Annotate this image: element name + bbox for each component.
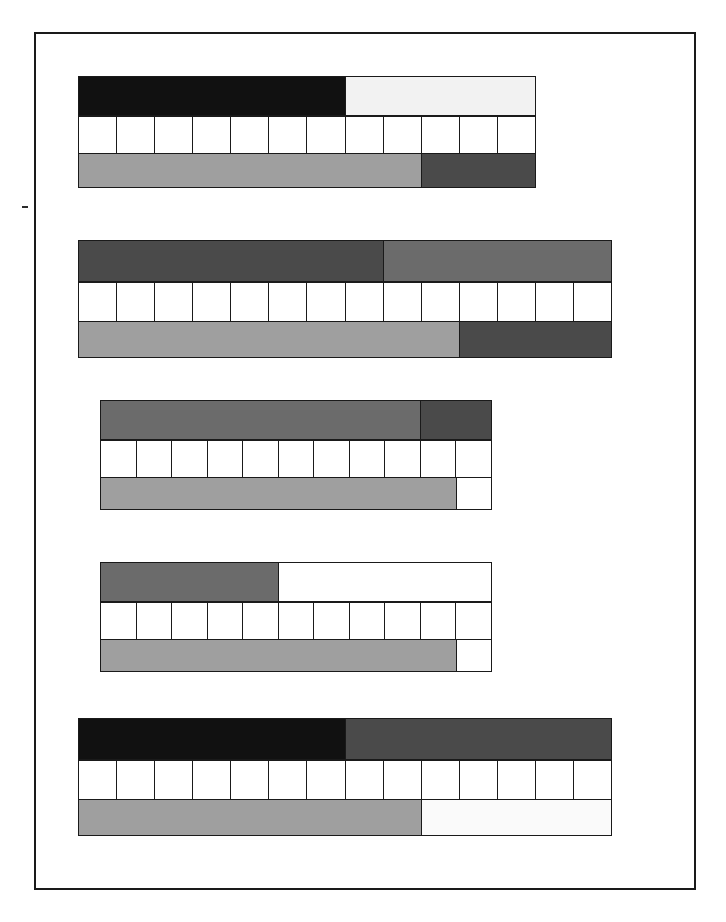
strip-cell[interactable]	[117, 117, 155, 153]
strip-cells-row[interactable]	[78, 116, 536, 154]
strip-cell[interactable]	[498, 761, 536, 799]
strip-cell[interactable]	[307, 283, 345, 321]
bottom-bar-segment[interactable]	[79, 154, 421, 187]
strip-cell[interactable]	[231, 283, 269, 321]
strip-cells-row[interactable]	[78, 282, 612, 322]
strip-cell[interactable]	[536, 761, 574, 799]
strip-top-bar[interactable]	[100, 562, 492, 602]
strip-cell[interactable]	[385, 441, 421, 477]
bottom-bar-segment[interactable]	[421, 800, 611, 835]
strip-cell[interactable]	[117, 761, 155, 799]
strip-cell[interactable]	[456, 441, 492, 477]
strip-cell[interactable]	[172, 603, 208, 639]
bottom-bar-segment[interactable]	[101, 478, 456, 509]
strip-cell[interactable]	[101, 441, 137, 477]
strip-cell[interactable]	[279, 441, 315, 477]
strip-cell[interactable]	[346, 283, 384, 321]
strip-cell[interactable]	[384, 283, 422, 321]
strip-group[interactable]	[78, 76, 536, 188]
bottom-bar-segment[interactable]	[79, 800, 421, 835]
bottom-bar-segment[interactable]	[459, 322, 611, 357]
strip-cell[interactable]	[193, 117, 231, 153]
strip-cell[interactable]	[421, 441, 457, 477]
top-bar-segment[interactable]	[345, 719, 611, 759]
strip-group[interactable]	[78, 718, 612, 836]
strip-bottom-bar[interactable]	[78, 322, 612, 358]
strip-cell[interactable]	[314, 441, 350, 477]
top-bar-segment[interactable]	[79, 241, 383, 281]
strip-cell[interactable]	[422, 117, 460, 153]
strip-cell[interactable]	[536, 283, 574, 321]
strip-cell[interactable]	[231, 761, 269, 799]
strip-top-bar[interactable]	[78, 240, 612, 282]
strip-cell[interactable]	[307, 761, 345, 799]
strip-cell[interactable]	[498, 117, 536, 153]
strip-cell[interactable]	[456, 603, 492, 639]
bottom-bar-segment[interactable]	[456, 478, 491, 509]
strip-cell[interactable]	[346, 761, 384, 799]
top-bar-segment[interactable]	[101, 401, 420, 439]
strip-bottom-bar[interactable]	[100, 640, 492, 672]
strip-cell[interactable]	[269, 117, 307, 153]
strip-cell[interactable]	[421, 603, 457, 639]
strip-cell[interactable]	[574, 761, 612, 799]
top-bar-segment[interactable]	[101, 563, 278, 601]
strip-cell[interactable]	[460, 761, 498, 799]
strip-top-bar[interactable]	[100, 400, 492, 440]
strip-cell[interactable]	[314, 603, 350, 639]
top-bar-segment[interactable]	[79, 77, 345, 115]
strip-cell[interactable]	[307, 117, 345, 153]
strip-cell[interactable]	[155, 761, 193, 799]
strip-cell[interactable]	[231, 117, 269, 153]
strip-cell[interactable]	[79, 117, 117, 153]
bottom-bar-segment[interactable]	[421, 154, 535, 187]
strip-cell[interactable]	[117, 283, 155, 321]
strip-cell[interactable]	[79, 283, 117, 321]
strip-cell[interactable]	[193, 761, 231, 799]
strip-cell[interactable]	[172, 441, 208, 477]
strip-cell[interactable]	[243, 441, 279, 477]
strip-top-bar[interactable]	[78, 76, 536, 116]
strip-cells-row[interactable]	[100, 440, 492, 478]
strip-cell[interactable]	[208, 603, 244, 639]
strip-cell[interactable]	[137, 441, 173, 477]
strip-cell[interactable]	[385, 603, 421, 639]
strip-cell[interactable]	[384, 117, 422, 153]
strip-cell[interactable]	[193, 283, 231, 321]
strip-cell[interactable]	[208, 441, 244, 477]
strip-cell[interactable]	[79, 761, 117, 799]
strip-cell[interactable]	[101, 603, 137, 639]
strip-bottom-bar[interactable]	[100, 478, 492, 510]
bottom-bar-segment[interactable]	[79, 322, 459, 357]
strip-cell[interactable]	[269, 761, 307, 799]
strip-cell[interactable]	[460, 117, 498, 153]
strip-cell[interactable]	[155, 117, 193, 153]
top-bar-segment[interactable]	[383, 241, 611, 281]
strip-group[interactable]	[100, 400, 492, 510]
strip-cell[interactable]	[460, 283, 498, 321]
strip-cell[interactable]	[574, 283, 612, 321]
bottom-bar-segment[interactable]	[101, 640, 456, 671]
strip-top-bar[interactable]	[78, 718, 612, 760]
strip-group[interactable]	[78, 240, 612, 358]
strip-cell[interactable]	[269, 283, 307, 321]
strip-cell[interactable]	[422, 283, 460, 321]
strip-bottom-bar[interactable]	[78, 154, 536, 188]
top-bar-segment[interactable]	[420, 401, 491, 439]
strip-cell[interactable]	[498, 283, 536, 321]
strip-cell[interactable]	[384, 761, 422, 799]
strip-cells-row[interactable]	[100, 602, 492, 640]
strip-cell[interactable]	[422, 761, 460, 799]
top-bar-segment[interactable]	[79, 719, 345, 759]
strip-cell[interactable]	[350, 441, 386, 477]
top-bar-segment[interactable]	[278, 563, 491, 601]
strip-cell[interactable]	[137, 603, 173, 639]
strip-cell[interactable]	[155, 283, 193, 321]
bottom-bar-segment[interactable]	[456, 640, 491, 671]
strip-bottom-bar[interactable]	[78, 800, 612, 836]
strip-cell[interactable]	[346, 117, 384, 153]
strip-cell[interactable]	[350, 603, 386, 639]
strip-cells-row[interactable]	[78, 760, 612, 800]
strip-group[interactable]	[100, 562, 492, 672]
strip-cell[interactable]	[279, 603, 315, 639]
